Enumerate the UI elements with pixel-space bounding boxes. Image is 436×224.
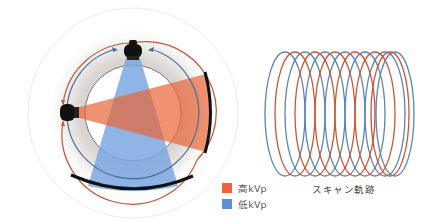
legend-label: 高kVp [238, 181, 267, 195]
legend-label: 低kVp [238, 197, 267, 211]
legend-item-high-kvp: 高kVp [222, 181, 267, 195]
low-kvp-swatch [222, 199, 232, 209]
high-kvp-swatch [222, 183, 232, 193]
gantry-diagram [28, 8, 238, 218]
helix-loop-red [371, 52, 409, 176]
legend-item-low-kvp: 低kVp [222, 197, 267, 211]
helix-caption: スキャン軌跡 [312, 182, 375, 196]
legend: 高kVp 低kVp [222, 181, 267, 213]
helix-detail [265, 52, 414, 176]
